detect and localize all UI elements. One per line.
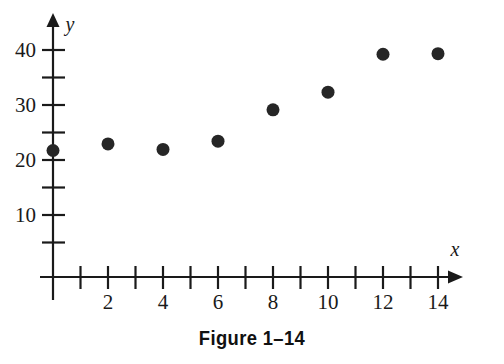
data-point [377, 48, 390, 61]
data-point [432, 47, 445, 60]
y-tick-label-40: 40 [15, 38, 36, 62]
x-tick-label-4: 4 [158, 290, 169, 314]
data-point [102, 137, 115, 150]
y-tick-label-10: 10 [15, 203, 36, 227]
data-point [157, 143, 170, 156]
y-axis-arrow-icon [47, 13, 60, 27]
x-tick-label-12: 12 [373, 290, 394, 314]
x-tick-label-2: 2 [103, 290, 114, 314]
y-tick-label-30: 30 [15, 93, 36, 117]
x-tick-label-6: 6 [213, 290, 224, 314]
x-tick-label-10: 10 [318, 290, 339, 314]
scatter-plot: 2 4 6 8 10 12 14 10 20 30 40 x y [0, 0, 504, 364]
x-axis-label: x [450, 238, 460, 260]
figure-caption: Figure 1–14 [20, 327, 484, 350]
data-point [47, 144, 60, 157]
y-tick-labels-group: 10 20 30 40 [15, 38, 36, 227]
x-tick-label-8: 8 [268, 290, 279, 314]
x-axis-arrow-icon [448, 271, 463, 284]
figure-container: 2 4 6 8 10 12 14 10 20 30 40 x y Figure … [0, 0, 504, 364]
data-point [212, 135, 225, 148]
y-axis-label: y [64, 13, 75, 36]
x-tick-labels-group: 2 4 6 8 10 12 14 [103, 290, 449, 314]
data-point [322, 86, 335, 99]
data-points-group [47, 47, 445, 157]
data-point [267, 103, 280, 116]
x-tick-label-14: 14 [428, 290, 450, 314]
y-tick-label-20: 20 [15, 148, 36, 172]
axes-group [40, 13, 463, 300]
